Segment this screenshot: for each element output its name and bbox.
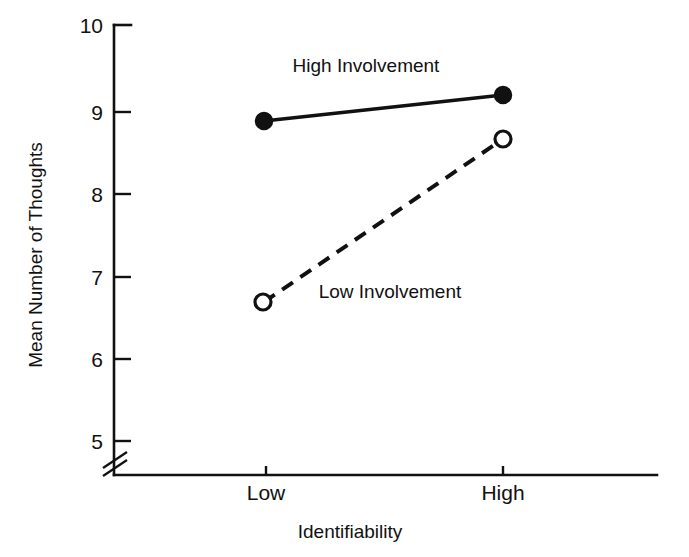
line-chart: 10 9 8 7 6 5 Low High Identifiability Me… [0,0,689,557]
x-axis-title: Identifiability [298,521,403,542]
y-tick-label-6: 6 [91,348,103,371]
chart-figure: 10 9 8 7 6 5 Low High Identifiability Me… [0,0,689,557]
series-label-low-involvement: Low Involvement [319,281,462,302]
y-tick-label-7: 7 [91,266,103,289]
y-tick-label-5: 5 [91,430,103,453]
x-tick-label-low: Low [247,481,286,504]
series-line-high-involvement [264,95,503,121]
y-tick-label-8: 8 [91,183,103,206]
x-tick-label-high: High [481,481,524,504]
y-tick-label-10: 10 [80,14,103,37]
data-point-low-involvement-high [495,131,511,147]
y-axis-title: Mean Number of Thoughts [25,142,46,368]
y-tick-label-9: 9 [91,101,103,124]
series-label-high-involvement: High Involvement [293,55,441,76]
series-line-low-involvement [264,139,503,302]
data-point-low-involvement-low [255,294,271,310]
data-point-high-involvement-low [256,113,273,130]
data-point-high-involvement-high [495,87,512,104]
